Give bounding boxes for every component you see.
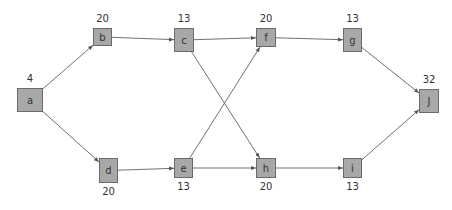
node-b: b [93, 28, 112, 46]
node-label: h [263, 163, 269, 174]
node-weight-f: 20 [251, 13, 281, 24]
edges-layer [0, 0, 452, 210]
node-weight-c: 13 [169, 13, 199, 24]
activity-network-diagram: a4b20c13d20e13f20g13h20i13J32 [0, 0, 452, 210]
node-label: g [349, 35, 355, 46]
node-label: d [105, 165, 111, 176]
node-weight-h: 20 [251, 181, 281, 192]
edge-a-b [43, 45, 93, 88]
node-i: i [343, 158, 362, 178]
edge-c-f [194, 38, 256, 40]
edge-b-c [112, 37, 174, 39]
node-weight-J: 32 [414, 74, 444, 85]
edge-a-d [43, 112, 99, 162]
node-weight-e: 13 [169, 181, 199, 192]
node-g: g [343, 28, 362, 52]
edge-g-J [362, 48, 419, 93]
node-label: i [351, 163, 354, 174]
edge-f-g [276, 38, 343, 40]
node-a: a [17, 88, 43, 112]
node-d: d [99, 158, 118, 183]
edge-c-h [192, 52, 260, 158]
node-label: c [181, 35, 187, 46]
node-weight-g: 13 [338, 13, 368, 24]
node-h: h [256, 158, 276, 178]
node-weight-a: 4 [15, 73, 45, 84]
node-J: J [419, 89, 439, 113]
node-label: J [428, 96, 431, 107]
node-label: b [99, 32, 105, 43]
node-label: e [180, 163, 186, 174]
node-f: f [256, 28, 276, 47]
node-e: e [174, 158, 193, 178]
node-label: a [27, 95, 33, 106]
node-weight-d: 20 [94, 186, 124, 197]
edge-d-e [118, 168, 174, 170]
node-weight-i: 13 [338, 181, 368, 192]
node-c: c [174, 28, 194, 52]
node-label: f [264, 32, 268, 43]
node-weight-b: 20 [88, 13, 118, 24]
edge-i-J [362, 110, 419, 160]
